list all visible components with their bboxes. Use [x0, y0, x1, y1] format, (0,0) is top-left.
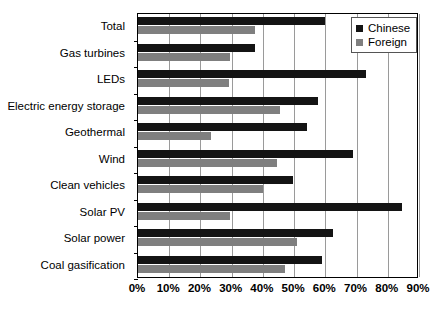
- bar-chinese: [138, 203, 402, 211]
- x-axis-tick-label: 70%: [344, 282, 367, 294]
- bar-chinese: [138, 150, 353, 158]
- y-axis-label: Wind: [0, 146, 131, 173]
- bar-chinese: [138, 176, 293, 184]
- bar-foreign: [138, 212, 230, 220]
- y-axis-label: Coal gasification: [0, 252, 131, 279]
- bar-group: [138, 253, 417, 280]
- y-axis-label: Geothermal: [0, 119, 131, 146]
- bar-group: [138, 120, 417, 147]
- y-axis-label: Electric energy storage: [0, 93, 131, 120]
- chart-legend: ChineseForeign: [351, 17, 417, 53]
- legend-swatch-icon: [356, 25, 363, 32]
- bar-foreign: [138, 79, 229, 87]
- y-axis-label: Clean vehicles: [0, 172, 131, 199]
- x-axis-tick-label: 40%: [250, 282, 273, 294]
- x-axis-tick-label: 90%: [406, 282, 429, 294]
- legend-item-chinese: Chinese: [356, 21, 410, 35]
- bar-group: [138, 200, 417, 227]
- y-axis-labels: TotalGas turbinesLEDsElectric energy sto…: [0, 13, 131, 278]
- y-axis-label: LEDs: [0, 66, 131, 93]
- legend-label: Chinese: [368, 21, 410, 35]
- bar-foreign: [138, 265, 285, 273]
- bar-chinese: [138, 44, 255, 52]
- gridline: [419, 14, 420, 277]
- bar-chinese: [138, 97, 318, 105]
- bar-chinese: [138, 17, 325, 25]
- y-axis-label: Solar PV: [0, 199, 131, 226]
- bar-foreign: [138, 132, 211, 140]
- y-axis-label: Total: [0, 13, 131, 40]
- bar-foreign: [138, 26, 255, 34]
- x-axis-tick-label: 30%: [219, 282, 242, 294]
- bar-foreign: [138, 106, 280, 114]
- legend-swatch-icon: [356, 39, 363, 46]
- bar-chinese: [138, 123, 307, 131]
- bar-group: [138, 147, 417, 174]
- legend-label: Foreign: [368, 35, 407, 49]
- bar-chart: TotalGas turbinesLEDsElectric energy sto…: [0, 0, 442, 309]
- x-axis-tick-label: 50%: [282, 282, 305, 294]
- bar-chinese: [138, 229, 333, 237]
- y-axis-tick: [134, 279, 138, 280]
- legend-item-foreign: Foreign: [356, 35, 410, 49]
- bar-foreign: [138, 53, 230, 61]
- x-axis-tick-label: 10%: [157, 282, 180, 294]
- bar-rows: [138, 14, 417, 277]
- bar-chinese: [138, 70, 366, 78]
- bar-foreign: [138, 159, 277, 167]
- x-axis-tick-label: 80%: [375, 282, 398, 294]
- bar-group: [138, 226, 417, 253]
- bar-foreign: [138, 185, 263, 193]
- bar-group: [138, 173, 417, 200]
- y-axis-label: Gas turbines: [0, 40, 131, 67]
- x-axis-tick-label: 20%: [188, 282, 211, 294]
- x-axis-tick-label: 0%: [129, 282, 146, 294]
- y-axis-label: Solar power: [0, 225, 131, 252]
- bar-chinese: [138, 256, 322, 264]
- bar-foreign: [138, 238, 297, 246]
- x-axis-labels: 0%10%20%30%40%50%60%70%80%90%: [137, 282, 418, 302]
- x-axis-tick-label: 60%: [313, 282, 336, 294]
- bar-group: [138, 94, 417, 121]
- bar-group: [138, 67, 417, 94]
